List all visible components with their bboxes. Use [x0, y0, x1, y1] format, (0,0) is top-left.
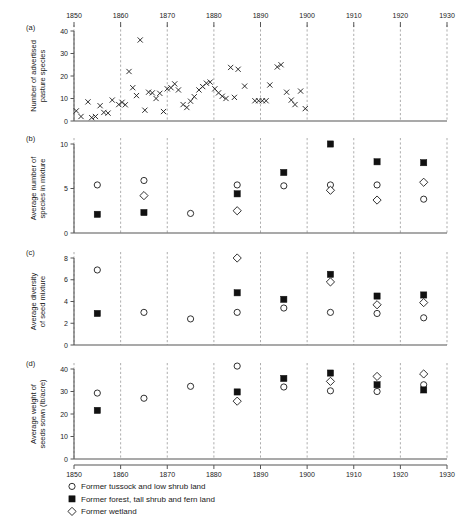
figure-container: 185018601870188018901900191019201930(a)0… [0, 0, 461, 519]
data-point-open-diamond [420, 178, 428, 186]
y-axis-title: Average diversityof seed mixture [29, 273, 47, 331]
data-point-cross [98, 103, 103, 108]
data-point-filled-square [327, 271, 333, 277]
data-point-open-diamond [233, 207, 241, 215]
data-point-open-circle [141, 309, 147, 315]
panel-c: (c)02468Average diversityof seed mixture [26, 248, 447, 349]
data-point-cross [93, 114, 98, 119]
data-point-filled-square [94, 407, 100, 413]
data-point-cross [284, 90, 289, 95]
data-point-cross [153, 96, 158, 101]
y-tick-label: 0 [64, 230, 68, 237]
data-point-cross [119, 100, 124, 105]
data-point-cross [123, 102, 128, 107]
x-tick-label-top: 1890 [253, 12, 269, 19]
x-tick-label-bottom: 1900 [299, 471, 315, 478]
y-axis-title-line: Average number of [29, 156, 38, 221]
data-point-open-diamond [326, 186, 334, 194]
x-tick-label-top: 1850 [66, 12, 82, 19]
data-point-open-diamond [373, 196, 381, 204]
data-point-cross [298, 88, 303, 93]
panel-b: (b)0510Average number ofspecies in mixtu… [26, 134, 447, 237]
data-point-cross [105, 111, 110, 116]
legend-marker-open-circle [69, 483, 75, 489]
series-3-open-diamond [233, 254, 428, 309]
panel-letter-label: (b) [26, 134, 36, 143]
data-point-open-circle [421, 315, 427, 321]
x-tick-label-bottom: 1890 [253, 471, 269, 478]
data-point-cross [126, 69, 131, 74]
data-point-filled-square [327, 141, 333, 147]
y-tick-label: 40 [60, 366, 68, 373]
data-point-open-diamond [420, 298, 428, 306]
data-point-open-circle [281, 305, 287, 311]
y-tick-label: 10 [60, 95, 68, 102]
data-point-filled-square [374, 382, 380, 388]
panel-d: (d)010203040Average weight ofseeds sown … [26, 359, 447, 463]
x-tick-label-bottom: 1910 [346, 471, 362, 478]
x-tick-label-top: 1870 [159, 12, 175, 19]
y-tick-label: 20 [60, 411, 68, 418]
legend-marker-filled-square [69, 496, 75, 502]
y-axis-title-line: pasture species [38, 49, 47, 102]
data-point-open-circle [94, 390, 100, 396]
data-point-cross [204, 81, 209, 86]
legend-marker-open-diamond [68, 507, 76, 515]
data-point-open-circle [281, 183, 287, 189]
data-point-filled-square [421, 387, 427, 393]
legend-label: Former forest, tall shrub and fern land [81, 495, 215, 504]
y-tick-label: 20 [60, 73, 68, 80]
data-point-open-circle [234, 363, 240, 369]
x-tick-label-bottom: 1920 [393, 471, 409, 478]
panel-letter-label: (d) [26, 359, 36, 368]
y-axis-title-line: of seed mixture [38, 276, 47, 327]
panel-a: (a)010203040Number of advertisedpasture … [26, 23, 447, 125]
x-tick-label-bottom: 1880 [206, 471, 222, 478]
data-point-open-circle [374, 388, 380, 394]
data-point-cross [184, 105, 189, 110]
multi-panel-scatter-figure: 185018601870188018901900191019201930(a)0… [0, 0, 461, 519]
data-point-open-diamond [373, 372, 381, 380]
data-point-cross [192, 94, 197, 99]
bottom-axis: 185018601870188018901900191019201930 [66, 465, 455, 478]
data-point-filled-square [234, 389, 240, 395]
y-tick-label: 10 [60, 141, 68, 148]
data-point-filled-square [421, 292, 427, 298]
data-point-open-diamond [233, 254, 241, 262]
y-axis-title-line: Average weight of [29, 383, 38, 444]
data-point-open-diamond [140, 192, 148, 200]
data-point-open-diamond [326, 278, 334, 286]
x-tick-label-top: 1900 [299, 12, 315, 19]
y-tick-label: 0 [64, 342, 68, 349]
data-point-cross [181, 102, 186, 107]
data-point-filled-square [327, 370, 333, 376]
y-axis-title-line: Number of advertised [29, 40, 38, 112]
x-tick-label-top: 1860 [113, 12, 129, 19]
x-tick-label-top: 1910 [346, 12, 362, 19]
data-point-open-circle [374, 310, 380, 316]
data-point-cross [236, 67, 241, 72]
data-point-cross [263, 98, 268, 103]
data-point-cross [242, 84, 247, 89]
y-tick-label: 40 [60, 28, 68, 35]
data-point-open-circle [94, 267, 100, 273]
data-point-cross [89, 115, 94, 120]
data-point-filled-square [94, 211, 100, 217]
legend-label: Former wetland [81, 507, 137, 516]
data-point-filled-square [421, 160, 427, 166]
data-point-cross [292, 102, 297, 107]
data-point-cross [130, 85, 135, 90]
legend: Former tussock and low shrub landFormer … [68, 482, 215, 516]
data-point-cross [134, 93, 139, 98]
data-point-cross [150, 90, 155, 95]
legend-item-3: Former wetland [68, 507, 137, 516]
x-tick-label-top: 1920 [393, 12, 409, 19]
panel-letter-label: (a) [26, 23, 36, 32]
y-tick-label: 8 [64, 255, 68, 262]
data-point-open-circle [187, 383, 193, 389]
x-tick-label-bottom: 1930 [439, 471, 455, 478]
top-axis: 185018601870188018901900191019201930 [66, 12, 455, 27]
y-axis-title: Average number ofspecies in mixture [29, 156, 47, 221]
data-point-filled-square [374, 293, 380, 299]
legend-item-2: Former forest, tall shrub and fern land [69, 495, 215, 504]
